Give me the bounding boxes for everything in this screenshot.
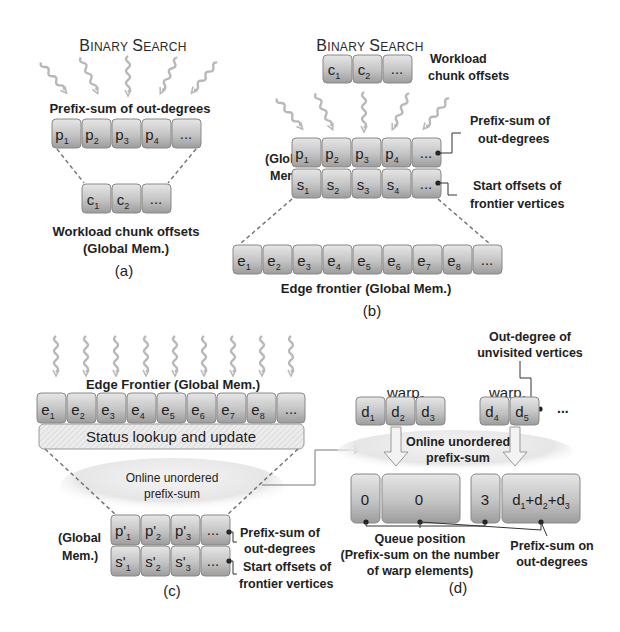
- prefix-label-c-1: Prefix-sum of: [240, 526, 321, 540]
- cell-e4-c: e4: [127, 393, 156, 423]
- cell-p1-a: p1: [52, 119, 81, 148]
- svg-text:...: ...: [285, 400, 298, 417]
- caption-c: (c): [163, 582, 181, 599]
- cell-p3-prime-c: p'3: [171, 515, 200, 545]
- prefix-label-c-2: out-degrees: [244, 542, 316, 556]
- cell-e4-b: e4: [323, 245, 352, 274]
- prefix-sum-array-b: p1 p2 p3 p4 ...: [292, 138, 441, 167]
- cell-ellipsis-p-c: ...: [201, 515, 230, 545]
- svg-text:...: ...: [150, 190, 163, 207]
- svg-text:...: ...: [180, 125, 193, 142]
- panel-a: BINARYSEARCH Prefix-sum of out-degrees p…: [39, 37, 220, 279]
- cell-p2-b: p2: [322, 138, 351, 167]
- cell-d3: d3: [416, 397, 445, 425]
- cell-ellipsis-chunk-a: ...: [142, 184, 171, 213]
- cell-c2-b: c2: [353, 55, 382, 83]
- cell-e6-c: e6: [187, 393, 216, 423]
- global-mem-label-c-1: (Global: [58, 531, 101, 545]
- cell-s2-b: s2: [322, 169, 351, 198]
- cell-p4-b: p4: [382, 138, 411, 167]
- cell-ellipsis-e-b: ...: [473, 245, 502, 274]
- edge-frontier-label-c: Edge Frontier (Global Mem.): [86, 377, 260, 392]
- queue-pos-label-1: Queue position: [375, 532, 466, 546]
- svg-text:...: ...: [481, 251, 494, 268]
- caption-a: (a): [115, 262, 133, 279]
- cell-d4: d4: [480, 397, 509, 425]
- cell-c2-a: c2: [112, 184, 141, 213]
- cell-p2-prime-c: p'2: [141, 515, 170, 545]
- panel-b: BINARYSEARCH c1 c2 ... Workload chunk of…: [233, 37, 565, 319]
- cell-p2-a: p2: [82, 119, 111, 148]
- cell-e3-b: e3: [293, 245, 322, 274]
- warp-ellipsis: ...: [557, 400, 569, 416]
- cell-c1-a: c1: [82, 184, 111, 213]
- result-array-warp3: 0 0: [351, 474, 460, 523]
- cell-p1-b: p1: [292, 138, 321, 167]
- svg-text:0: 0: [415, 491, 423, 508]
- cell-e5-b: e5: [353, 245, 382, 274]
- cell-e8-c: e8: [247, 393, 276, 423]
- zoom-dash-left-b: [240, 199, 292, 244]
- cell-e8-b: e8: [443, 245, 472, 274]
- result-array-warp1: 3 d1+d2+d3: [471, 474, 580, 523]
- start-offsets-array-c: s'1 s'2 s'3 ...: [111, 546, 230, 576]
- cell-s4-b: s4: [382, 169, 411, 198]
- svg-text:...: ...: [207, 552, 220, 569]
- zoom-dash-right-a: [168, 149, 196, 183]
- cell-p3-a: p3: [112, 119, 141, 148]
- cell-e7-b: e7: [413, 245, 442, 274]
- psum-outdeg-label-2: out-degrees: [516, 555, 588, 569]
- panel-c: Edge Frontier (Global Mem.) e1 e2 e3 e4 …: [37, 336, 362, 599]
- chunk-offsets-array-a: c1 c2 ...: [82, 184, 171, 213]
- queue-pos-cell-warp1: 3: [471, 474, 500, 523]
- thread-squiggles-b: [275, 92, 452, 132]
- queue-pos-label-3: of warp elements): [367, 564, 473, 578]
- chunk-offsets-mem-label-a: (Global Mem.): [83, 241, 169, 256]
- cell-d1: d1: [356, 397, 385, 425]
- cell-e3-c: e3: [97, 393, 126, 423]
- svg-text:...: ...: [420, 144, 433, 161]
- prefix-label-b-2: out-degrees: [478, 132, 550, 146]
- panel-d: Out-degree of unvisited vertices warp3 w…: [337, 330, 594, 596]
- start-label-c-2: frontier vertices: [239, 577, 334, 591]
- cell-p1-prime-c: p'1: [111, 515, 140, 545]
- prefix-label-b-1: Prefix-sum of: [470, 114, 551, 128]
- cell-c1-b: c1: [323, 55, 352, 83]
- cell-e2-c: e2: [67, 393, 96, 423]
- cell-s2-prime-c: s'2: [141, 546, 170, 576]
- cell-s1-prime-c: s'1: [111, 546, 140, 576]
- chunk-offsets-label-b-1: Workload: [430, 52, 487, 66]
- edge-frontier-array-b: e1 e2 e3 e4 e5 e6 e7 e8 ...: [233, 245, 502, 274]
- cell-p3-b: p3: [352, 138, 381, 167]
- cell-s3-b: s3: [352, 169, 381, 198]
- cell-ellipsis-s-c: ...: [201, 546, 230, 576]
- prefix-sum-array-c: p'1 p'2 p'3 ...: [111, 515, 230, 545]
- svg-text:...: ...: [207, 521, 220, 538]
- prefix-sum-label-a: Prefix-sum of out-degrees: [49, 101, 210, 116]
- zoom-dash-left-a: [57, 149, 84, 183]
- caption-b: (b): [363, 302, 381, 319]
- cell-ellipsis-e-c: ...: [277, 393, 305, 423]
- online-prefix-label-d-2: prefix-sum: [426, 451, 490, 465]
- outdeg-label-1: Out-degree of: [489, 330, 572, 344]
- cell-e1-b: e1: [233, 245, 262, 274]
- warp1-degree-array: d4 d5: [480, 397, 539, 425]
- edge-frontier-label-b: Edge frontier (Global Mem.): [281, 281, 451, 296]
- cell-ellipsis-chunk-b: ...: [383, 55, 412, 83]
- prefix-sum-cell-warp1: d1+d2+d3: [502, 474, 580, 523]
- svg-text:...: ...: [391, 60, 404, 77]
- online-prefix-cloud-c: [60, 458, 284, 514]
- queue-pos-label-2: (Prefix-sum on the number: [340, 548, 499, 562]
- cell-d5: d5: [510, 397, 539, 425]
- cell-e7-c: e7: [217, 393, 246, 423]
- cell-e5-c: e5: [157, 393, 186, 423]
- chunk-offsets-label-b-2: chunk offsets: [428, 69, 509, 83]
- prefix-sum-array-a: p1 p2 p3 p4 ...: [52, 119, 201, 148]
- thread-squiggles-a: [39, 56, 220, 96]
- psum-outdeg-label-1: Prefix-sum on: [510, 539, 593, 553]
- cell-e2-b: e2: [263, 245, 292, 274]
- start-offsets-array-b: s1 s2 s3 s4 ...: [292, 169, 441, 198]
- prefix-sum-cell-warp3: 0: [382, 474, 460, 523]
- cell-p4-a: p4: [142, 119, 171, 148]
- caption-d: (d): [449, 579, 467, 596]
